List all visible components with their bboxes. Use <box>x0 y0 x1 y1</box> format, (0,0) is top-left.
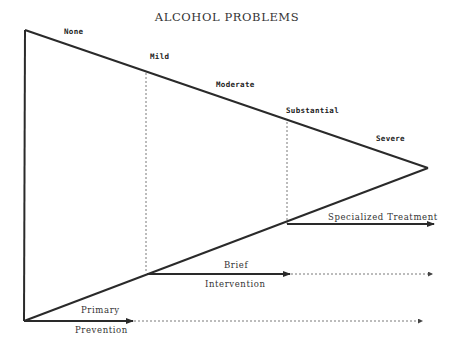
primary-label: Primary <box>81 305 120 315</box>
severity-label-severe: Severe <box>376 134 405 143</box>
severity-label-substantial: Substantial <box>286 106 339 115</box>
triangle-left-edge <box>24 30 25 321</box>
intervention-label: Intervention <box>205 279 266 289</box>
prevention-label: Prevention <box>75 325 128 335</box>
severity-triangle <box>24 30 428 321</box>
diagram-graphics <box>0 0 454 349</box>
alcohol-problems-diagram: ALCOHOL PROBLEMS None Mild Moderate Subs… <box>0 0 454 349</box>
diagram-title: ALCOHOL PROBLEMS <box>0 10 454 24</box>
severity-label-moderate: Moderate <box>216 80 255 89</box>
specialized-treatment-label: Specialized Treatment <box>328 212 438 222</box>
severity-label-mild: Mild <box>150 52 169 61</box>
severity-label-none: None <box>64 27 83 36</box>
triangle-bottom-edge <box>24 168 428 321</box>
brief-label: Brief <box>224 260 248 270</box>
triangle-top-edge <box>25 30 428 168</box>
